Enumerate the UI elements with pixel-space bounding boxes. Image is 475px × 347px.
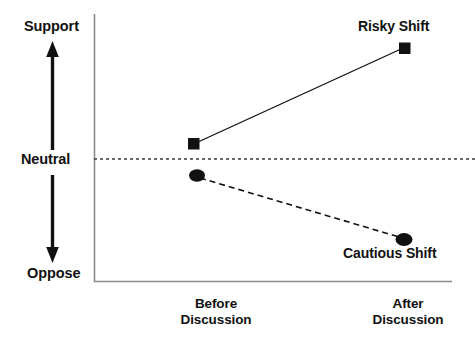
y-axis-label-neutral: Neutral xyxy=(21,151,70,167)
x-axis-label-after-discussion: After Discussion xyxy=(352,296,464,328)
x-axis-label-before-discussion: Before Discussion xyxy=(160,296,272,328)
x-axis-label-before-line1: Before xyxy=(160,296,272,312)
risky-shift-chart: Support Neutral Oppose Before Discussion… xyxy=(0,0,475,347)
cautious-shift-marker-after xyxy=(396,233,413,246)
x-axis-label-after-line2: Discussion xyxy=(352,312,464,328)
risky-shift-line xyxy=(198,49,401,142)
y-axis-label-oppose: Oppose xyxy=(27,265,80,281)
y-axis-label-support: Support xyxy=(24,18,79,34)
oppose-arrow-icon xyxy=(46,175,59,263)
x-axis-label-before-line2: Discussion xyxy=(160,312,272,328)
cautious-shift-line xyxy=(200,178,399,237)
x-axis-label-after-line1: After xyxy=(352,296,464,312)
series-label-cautious-shift: Cautious Shift xyxy=(343,245,436,261)
cautious-shift-marker-before xyxy=(189,169,205,181)
series-label-risky-shift: Risky Shift xyxy=(358,18,429,34)
risky-shift-marker-after xyxy=(399,43,411,55)
support-arrow-icon xyxy=(46,41,59,150)
chart-canvas xyxy=(0,0,475,347)
risky-shift-marker-before xyxy=(188,138,200,150)
